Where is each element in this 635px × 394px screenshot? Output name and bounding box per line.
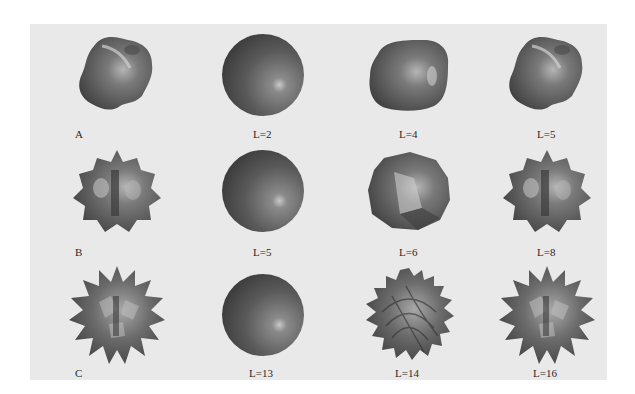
cell-row-b-l6: L=6 — [337, 144, 481, 262]
cell-row-b-original: B — [45, 144, 189, 262]
cell-label: L=4 — [399, 128, 417, 140]
rounded-cube-icon — [364, 32, 454, 116]
faceted-shape-icon — [364, 148, 454, 234]
shape-reconstruction-figure: A L=2 L=4 L=5 B L=5 — [30, 24, 607, 380]
cell-row-c-l14: L=14 — [337, 262, 481, 380]
star-lumpy-shape-icon — [501, 148, 593, 234]
lumpy-shape-icon — [502, 32, 592, 116]
sphere-icon — [220, 148, 306, 234]
cell-label: L=8 — [537, 246, 555, 258]
cell-label: C — [75, 367, 82, 379]
spiky-regular-shape-icon — [362, 266, 456, 362]
cell-label: L=13 — [249, 367, 273, 379]
cell-label: L=5 — [537, 128, 555, 140]
cell-row-a-original: A — [45, 28, 189, 146]
cell-row-a-l5: L=5 — [475, 28, 619, 146]
cell-label: L=6 — [399, 246, 417, 258]
cell-row-c-l13: L=13 — [191, 262, 335, 380]
cell-label: L=2 — [253, 128, 271, 140]
cell-row-b-l5: L=5 — [191, 144, 335, 262]
cell-label: L=14 — [395, 367, 419, 379]
shape-b-original-icon — [71, 148, 163, 234]
cell-row-a-l4: L=4 — [337, 28, 481, 146]
cell-row-c-original: C — [45, 262, 189, 380]
spiky-shape-icon — [499, 266, 595, 366]
cell-label: B — [75, 246, 82, 258]
sphere-icon — [220, 32, 306, 118]
cell-label: A — [75, 128, 83, 140]
cell-label: L=5 — [253, 246, 271, 258]
cell-row-b-l8: L=8 — [475, 144, 619, 262]
sphere-icon — [220, 272, 306, 358]
cell-row-c-l16: L=16 — [475, 262, 619, 380]
shape-c-original-icon — [69, 266, 165, 366]
cell-label: L=16 — [533, 367, 557, 379]
cell-row-a-l2: L=2 — [191, 28, 335, 146]
shape-a-original-icon — [72, 32, 162, 116]
